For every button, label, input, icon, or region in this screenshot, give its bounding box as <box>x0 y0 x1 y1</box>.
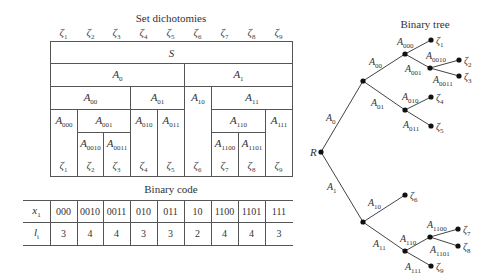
edge-label: A11 <box>372 238 386 252</box>
edge-label: A001 <box>404 63 422 77</box>
leaf-label: ζ5 <box>436 121 444 135</box>
leaf-label: ζ6 <box>410 190 418 204</box>
edge-label: A00 <box>368 56 383 70</box>
leaf-label: ζ3 <box>464 71 472 85</box>
leaf-label: ζ1 <box>436 35 444 49</box>
edge-label: A011 <box>402 119 420 133</box>
leaf-label: ζ7 <box>463 224 471 238</box>
root-label: R <box>309 146 317 158</box>
edge-label: A0 <box>325 112 336 126</box>
edge-label: A010 <box>401 91 419 105</box>
edge-label: A000 <box>396 36 414 50</box>
edge-label: A1100 <box>426 219 447 233</box>
leaf-label: ζ8 <box>463 241 471 255</box>
binary-tree-title: Binary tree <box>400 18 449 30</box>
leaf-label: ζ9 <box>436 261 444 275</box>
edge-label: A1101 <box>429 244 450 258</box>
leaf-label: ζ2 <box>464 55 472 69</box>
edge-label: A110 <box>399 233 417 247</box>
edge-label: A01 <box>370 97 385 111</box>
leaf-label: ζ4 <box>436 92 444 106</box>
edge-label: A0010 <box>425 50 447 64</box>
root-node <box>318 149 323 154</box>
edge-label: A1 <box>326 181 337 195</box>
tree-labels: R A0 A1 A00 A01 A10 A11 A000 A001 A010 A… <box>309 36 453 275</box>
edge-label: A10 <box>367 197 382 211</box>
binary-tree: Binary tree <box>0 0 496 280</box>
edge-label: A111 <box>404 261 422 275</box>
edge-label: A0011 <box>432 74 453 88</box>
